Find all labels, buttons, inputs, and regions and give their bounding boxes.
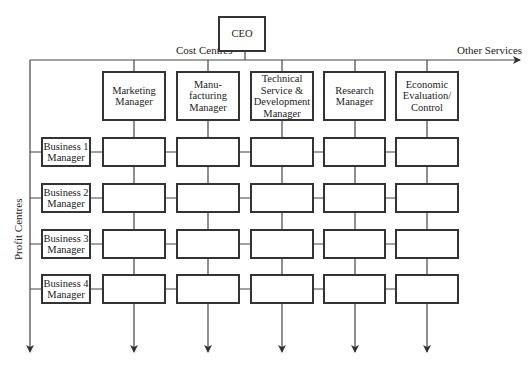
matrix-cell xyxy=(102,183,166,213)
other-services-label: Other Services xyxy=(457,44,522,56)
matrix-cell xyxy=(102,229,166,259)
matrix-cell xyxy=(323,137,386,167)
matrix-cell xyxy=(323,274,386,304)
matrix-cell xyxy=(176,274,240,304)
matrix-cell xyxy=(395,229,459,259)
technical-service-manager-box: Technical Service & Development Manager xyxy=(250,71,314,121)
matrix-cell xyxy=(323,183,386,213)
matrix-cell xyxy=(323,229,386,259)
business-1-manager-box: Business 1 Manager xyxy=(41,137,91,167)
ceo-box: CEO xyxy=(218,16,266,52)
matrix-cell xyxy=(250,137,314,167)
business-3-manager-box: Business 3 Manager xyxy=(41,229,91,259)
matrix-cell xyxy=(176,229,240,259)
matrix-cell xyxy=(250,183,314,213)
matrix-cell xyxy=(102,274,166,304)
matrix-cell xyxy=(176,183,240,213)
research-manager-box: Research Manager xyxy=(323,71,386,121)
business-4-manager-box: Business 4 Manager xyxy=(41,274,91,304)
matrix-cell xyxy=(176,137,240,167)
manufacturing-manager-box: Manu- facturing Manager xyxy=(176,71,240,121)
matrix-cell xyxy=(395,183,459,213)
matrix-cell xyxy=(395,137,459,167)
matrix-cell xyxy=(395,274,459,304)
business-2-manager-box: Business 2 Manager xyxy=(41,183,91,213)
matrix-cell xyxy=(250,229,314,259)
matrix-cell xyxy=(102,137,166,167)
economic-evaluation-box: Economic Evaluation/ Control xyxy=(395,71,459,121)
matrix-cell xyxy=(250,274,314,304)
profit-centres-label: Profit Centres xyxy=(12,199,24,260)
marketing-manager-box: Marketing Manager xyxy=(102,71,166,121)
